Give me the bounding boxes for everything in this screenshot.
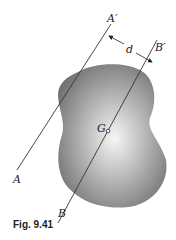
label-d: d — [126, 43, 133, 56]
label-A-prime: A′ — [106, 12, 118, 25]
centroid-G-marker — [106, 129, 110, 133]
label-A: A — [12, 173, 21, 186]
label-B: B — [57, 207, 66, 220]
label-G: G — [97, 122, 106, 135]
label-B-prime: B′ — [154, 41, 166, 54]
figure-caption: Fig. 9.41 — [13, 219, 53, 230]
figure-diagram: A′ B′ d G A B — [0, 0, 176, 240]
distance-d-arrow-left — [109, 36, 124, 44]
body-shape — [58, 64, 167, 207]
